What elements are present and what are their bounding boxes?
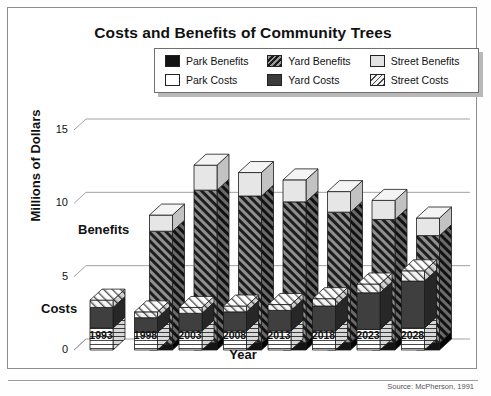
y-axis-tick: 10: [42, 196, 68, 208]
x-axis-tick: 2013: [257, 329, 301, 341]
x-axis-tick: 1998: [124, 329, 168, 341]
plot-area: Millions of Dollars Year Benefits Costs …: [8, 8, 478, 370]
source-divider: [8, 380, 478, 381]
annotation-benefits: Benefits: [78, 222, 129, 237]
x-axis-tick: 2023: [346, 329, 390, 341]
x-axis-tick: 2008: [213, 329, 257, 341]
chart-frame: Costs and Benefits of Community Trees Pa…: [7, 7, 477, 369]
y-axis-tick: 5: [42, 270, 68, 282]
chart-page: Costs and Benefits of Community Trees Pa…: [0, 0, 491, 396]
y-axis-title: Millions of Dollars: [28, 91, 43, 241]
source-note: Source: McPherson, 1991: [8, 382, 478, 391]
x-axis-tick: 2003: [168, 329, 212, 341]
x-axis-tick: 2018: [302, 329, 346, 341]
x-axis-tick: 2028: [391, 329, 435, 341]
x-axis-title: Year: [8, 347, 478, 362]
chart-svg: [8, 8, 478, 370]
x-axis-tick: 1993: [79, 329, 123, 341]
y-axis-tick: 0: [42, 343, 68, 355]
annotation-costs: Costs: [41, 301, 77, 316]
y-axis-tick: 15: [42, 123, 68, 135]
